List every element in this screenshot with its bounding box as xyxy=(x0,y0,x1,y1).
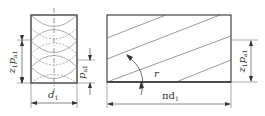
pitch-label: pa1 xyxy=(76,65,88,79)
left-view xyxy=(17,8,95,108)
right-rectangle xyxy=(107,15,231,82)
left-height-label: z1pa1 xyxy=(6,51,18,75)
left-width-label: d1 xyxy=(48,89,58,101)
lead-angle-arc xyxy=(127,56,143,95)
helix-development-lines xyxy=(107,15,231,82)
worm-development-diagram: d1 z1pa1 pa1 πd1 r z1pa1 xyxy=(0,0,265,116)
right-width-label: πd1 xyxy=(162,90,179,102)
lead-angle-label: r xyxy=(154,68,160,79)
right-height-label: z1pa1 xyxy=(236,50,248,74)
